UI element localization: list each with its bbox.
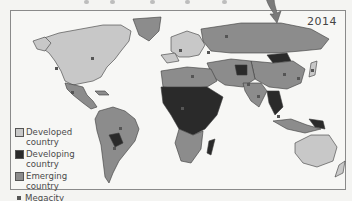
legend-item-emerging: Emergingcountry <box>15 171 75 191</box>
top-page-marks <box>0 0 352 8</box>
developed-swatch-icon <box>15 128 24 137</box>
megacity-swatch-icon <box>17 196 21 200</box>
map-legend: Developedcountry Developingcountry Emerg… <box>15 127 75 201</box>
legend-item-developing: Developingcountry <box>15 149 75 169</box>
region-australia <box>295 135 337 167</box>
region-europe <box>171 31 205 57</box>
pointer-arrow-icon <box>262 0 284 24</box>
region-north-africa <box>161 67 217 89</box>
region-mexico <box>65 83 97 109</box>
emerging-swatch-icon <box>15 172 24 181</box>
legend-item-developed: Developedcountry <box>15 127 75 147</box>
developing-swatch-icon <box>15 150 24 159</box>
region-north-america <box>41 25 131 85</box>
region-africa <box>161 87 223 135</box>
map-frame: 2014 Developedcountry Developingcountry … <box>10 10 346 190</box>
year-label: 2014 <box>307 15 337 28</box>
region-greenland <box>133 17 161 41</box>
legend-item-megacity: Megacity <box>15 193 75 201</box>
region-india <box>243 83 267 107</box>
